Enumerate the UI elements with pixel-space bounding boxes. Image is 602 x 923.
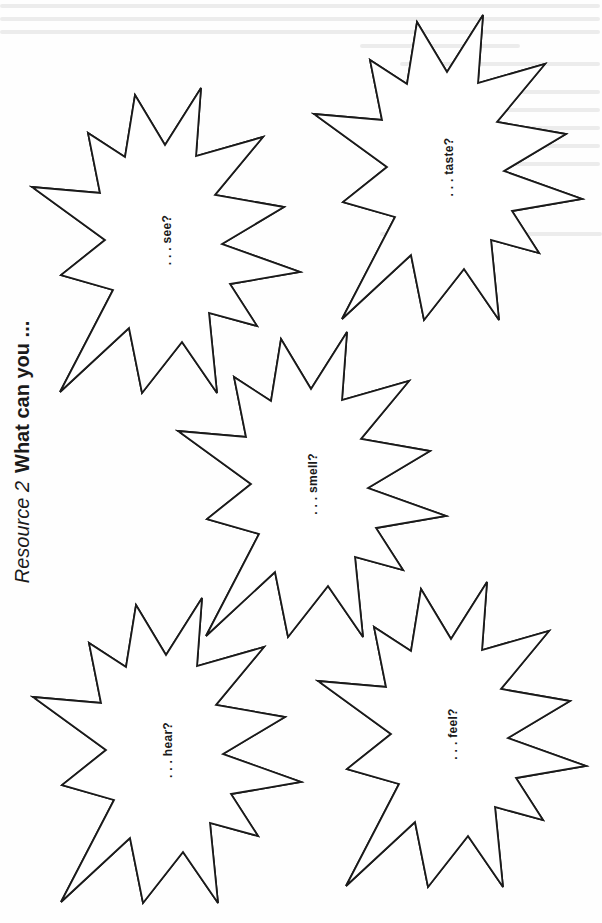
burst-label-hear: . . . hear? (161, 722, 175, 778)
burst-label-see: . . . see? (160, 215, 174, 265)
worksheet-page: Resource 2What can you ... . . . see? . … (0, 0, 602, 923)
burst-label-feel: . . . feel? (446, 708, 460, 759)
title-question: What can you ... (11, 321, 33, 473)
resource-number: Resource 2 (11, 481, 33, 583)
starburst-outlines (0, 0, 602, 923)
page-title: Resource 2What can you ... (11, 321, 34, 584)
burst-label-taste: . . . taste? (442, 138, 456, 197)
burst-label-smell: . . . smell? (306, 453, 320, 515)
